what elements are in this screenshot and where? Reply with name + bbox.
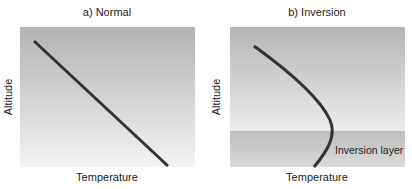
inversion-layer-label: Inversion layer (335, 144, 403, 156)
panel-inversion-ylabel: Altitude (210, 67, 222, 127)
diagram-canvas (0, 0, 412, 189)
panel-normal-plot (20, 27, 195, 167)
panel-normal-ylabel: Altitude (2, 67, 14, 127)
panel-inversion-title: b) Inversion (227, 6, 407, 18)
panel-normal-title: a) Normal (17, 6, 197, 18)
panel-normal-xlabel: Temperature (17, 171, 197, 183)
panel-inversion-xlabel: Temperature (227, 171, 407, 183)
